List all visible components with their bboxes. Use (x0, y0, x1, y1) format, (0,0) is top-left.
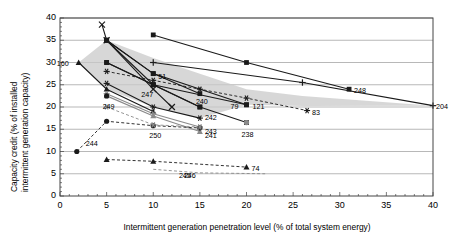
data-point-label: 242 (205, 113, 217, 122)
capacity-credit-chart: Capacity credit (% of installed intermit… (0, 0, 451, 240)
data-point-label: 204 (436, 102, 448, 111)
data-point-label: 250 (149, 131, 161, 140)
data-point-label: 160 (57, 59, 69, 68)
y-tick-label: 0 (34, 190, 56, 200)
data-point-83 (304, 108, 310, 113)
y-tick-label: 40 (34, 12, 56, 22)
data-point-238 (244, 120, 249, 125)
series-line-74 (107, 160, 247, 168)
x-tick-label: 25 (284, 200, 302, 210)
y-tick-label: 20 (34, 101, 56, 111)
data-point-79 (104, 60, 109, 65)
y-tick-label: 15 (34, 123, 56, 133)
data-point-248 (347, 87, 352, 92)
y-tick-label: 10 (34, 146, 56, 156)
data-point-label: 241 (205, 131, 217, 140)
data-point-244 (104, 119, 109, 124)
data-point-label: 79 (231, 102, 239, 111)
y-tick-label: 25 (34, 79, 56, 89)
y-tick-label: 5 (34, 168, 56, 178)
data-point-label: 245 (179, 171, 191, 180)
data-point-label: 244 (86, 139, 98, 148)
data-point-label: 121 (253, 102, 265, 111)
data-point-121 (151, 71, 156, 76)
x-tick-label: 5 (98, 200, 116, 210)
data-point-label: 51 (158, 72, 166, 81)
x-tick-label: 35 (377, 200, 395, 210)
y-tick-label: 30 (34, 57, 56, 67)
data-point-label: 240 (196, 97, 208, 106)
data-point-label: 247 (141, 90, 153, 99)
data-point-244 (74, 149, 79, 154)
data-point-79 (151, 82, 156, 87)
data-point-249 (104, 93, 109, 98)
y-tick-label: 35 (34, 34, 56, 44)
data-point-79 (244, 102, 249, 107)
data-point-x-top (99, 22, 105, 28)
data-point-label: 249 (103, 102, 115, 111)
data-point-label: 248 (354, 86, 366, 95)
data-point-label: 83 (312, 108, 320, 117)
x-tick-label: 40 (424, 200, 442, 210)
data-point-248 (151, 33, 156, 38)
x-tick-label: 15 (191, 200, 209, 210)
data-point-51 (197, 91, 202, 96)
x-tick-label: 30 (331, 200, 349, 210)
data-point-248 (244, 60, 249, 65)
x-tick-label: 10 (144, 200, 162, 210)
data-point-label: 74 (252, 164, 260, 173)
x-tick-label: 20 (238, 200, 256, 210)
x-tick-label: 0 (51, 200, 69, 210)
data-point-label: 238 (242, 130, 254, 139)
series-line-246 (153, 169, 265, 173)
